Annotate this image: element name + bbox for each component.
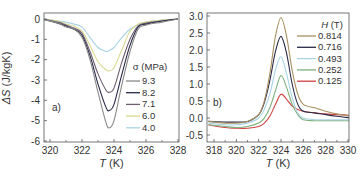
- x-tick-label: 328: [170, 145, 187, 156]
- series-group: [42, 19, 178, 128]
- legend-entry-label: 4.0: [142, 122, 155, 133]
- legend-entry-label: 0.716: [318, 41, 342, 52]
- x-tick-label: 322: [74, 145, 91, 156]
- y-tick-label: 1.5: [189, 62, 203, 73]
- y-tick-label: -2: [31, 54, 40, 65]
- panel-a: 0-1-2-3-4-5-6320322324326328T (K)ΔS (J/k…: [0, 13, 187, 169]
- y-tick-label: -3: [31, 75, 40, 86]
- legend-entry-label: 0.493: [318, 53, 342, 64]
- legend-title: σ (MPa): [133, 61, 167, 72]
- legend-entry-label: 7.1: [142, 98, 155, 109]
- y-tick-label: 0: [34, 14, 40, 25]
- x-tick-label: 324: [106, 145, 123, 156]
- figure: 0-1-2-3-4-5-6320322324326328T (K)ΔS (J/k…: [0, 0, 362, 178]
- x-axis-label: T (K): [266, 157, 290, 169]
- y-tick-label: 2.5: [189, 28, 203, 39]
- y-tick-label: -6: [31, 136, 40, 147]
- legend-entry-label: 9.3: [142, 75, 155, 86]
- x-tick-label: 326: [295, 145, 312, 156]
- x-tick-label: 324: [273, 145, 290, 156]
- legend-entry-label: 0.125: [318, 75, 342, 86]
- y-tick-label: -1: [31, 34, 40, 45]
- y-tick-label: 0.5: [189, 96, 203, 107]
- x-tick-label: 322: [250, 145, 267, 156]
- x-axis-label: T (K): [99, 157, 123, 169]
- chart-canvas: 0-1-2-3-4-5-6320322324326328T (K)ΔS (J/k…: [0, 0, 362, 178]
- x-tick-label: 330: [340, 145, 357, 156]
- legend-entry-label: 6.0: [142, 110, 155, 121]
- y-tick-label: -5: [31, 115, 40, 126]
- plot-frame: [44, 13, 179, 142]
- legend-title: H (T): [321, 19, 343, 30]
- y-tick-label: 3.0: [189, 11, 203, 22]
- y-tick-label: -0.5: [186, 130, 204, 141]
- y-tick-label: 1.0: [189, 79, 203, 90]
- panel-b: 3.02.52.01.51.00.50.0-0.5318320322324326…: [186, 11, 357, 170]
- panel-label: b): [213, 97, 222, 108]
- x-tick-label: 320: [42, 145, 59, 156]
- y-tick-label: 0.0: [189, 113, 203, 124]
- x-tick-label: 328: [317, 145, 334, 156]
- x-tick-label: 318: [206, 145, 223, 156]
- legend: H (T)0.8140.7160.4930.2520.125: [297, 19, 343, 86]
- legend-entry-label: 0.814: [318, 30, 342, 41]
- x-tick-label: 320: [228, 145, 245, 156]
- x-tick-label: 326: [138, 145, 155, 156]
- y-axis-label: ΔS (J/kgK): [0, 52, 12, 106]
- legend: σ (MPa)9.38.27.16.04.0: [126, 61, 167, 133]
- series-line-7.1: [42, 19, 178, 92]
- legend-entry-label: 8.2: [142, 87, 155, 98]
- y-tick-label: -4: [31, 95, 40, 106]
- legend-entry-label: 0.252: [318, 64, 342, 75]
- panel-label: a): [52, 102, 61, 113]
- series-line-9.3: [42, 19, 178, 128]
- y-tick-label: 2.0: [189, 45, 203, 56]
